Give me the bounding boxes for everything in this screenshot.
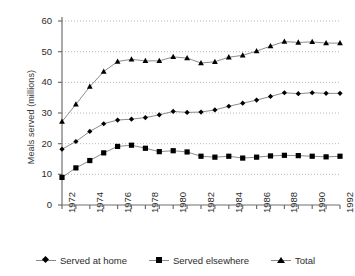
data-point (226, 154, 231, 159)
data-point (240, 155, 245, 160)
data-point (73, 165, 78, 170)
data-point (198, 154, 203, 159)
data-point (296, 91, 301, 96)
data-point (268, 94, 273, 99)
data-point (129, 143, 134, 148)
data-point (337, 91, 342, 96)
data-point (282, 38, 288, 43)
data-point (309, 39, 315, 44)
data-point (129, 56, 135, 61)
data-point (337, 154, 342, 159)
data-point (226, 104, 231, 109)
data-point (143, 115, 148, 120)
legend-item-total[interactable]: Total (271, 255, 315, 266)
legend-label: Served at home (60, 255, 127, 266)
data-point (254, 155, 259, 160)
data-point (282, 90, 287, 95)
data-point (87, 158, 92, 163)
legend-item-served-elsewhere[interactable]: Served elsewhere (149, 255, 249, 266)
data-point (143, 146, 148, 151)
data-point (157, 149, 162, 154)
data-point (212, 107, 217, 112)
data-point (59, 175, 64, 180)
data-point (268, 153, 273, 158)
data-point (324, 91, 329, 96)
chart-legend: Served at home Served elsewhere Total (0, 250, 351, 270)
series-line (62, 145, 340, 177)
data-point (115, 144, 120, 149)
series-line (62, 93, 340, 149)
data-point (171, 109, 176, 114)
diamond-marker-icon (36, 255, 56, 265)
data-point (101, 150, 106, 155)
data-point (296, 153, 301, 158)
data-point (240, 101, 245, 106)
data-point (310, 154, 315, 159)
data-point (101, 121, 106, 126)
legend-label: Total (295, 255, 315, 266)
data-point (198, 109, 203, 114)
data-point (185, 110, 190, 115)
data-point (310, 90, 315, 95)
data-point (115, 117, 120, 122)
data-point (185, 149, 190, 154)
data-point (101, 69, 107, 74)
data-point (170, 54, 176, 59)
data-point (324, 154, 329, 159)
data-point (254, 98, 259, 103)
data-point (282, 153, 287, 158)
data-point (59, 147, 64, 152)
legend-label: Served elsewhere (173, 255, 249, 266)
data-point (171, 148, 176, 153)
square-marker-icon (149, 255, 169, 265)
legend-item-served-at-home[interactable]: Served at home (36, 255, 127, 266)
data-point (212, 155, 217, 160)
data-point (129, 117, 134, 122)
triangle-marker-icon (271, 255, 291, 265)
